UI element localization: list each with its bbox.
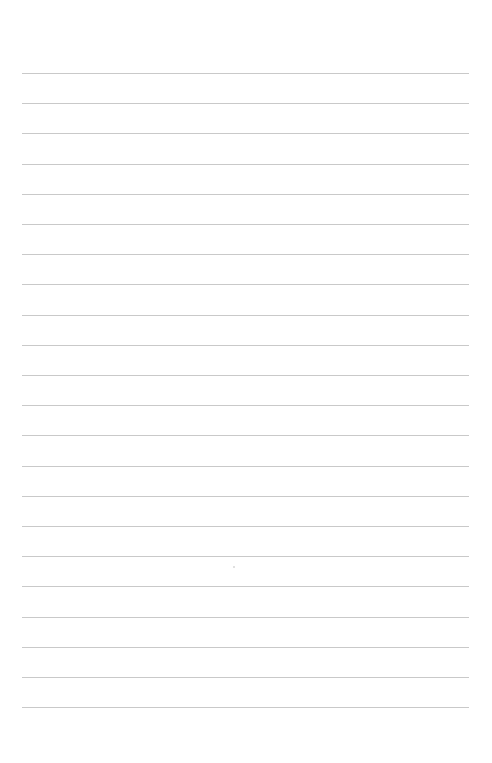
ruled-line: [22, 617, 469, 618]
ruled-line: [22, 466, 469, 467]
ruled-line: [22, 73, 469, 74]
ruled-line: [22, 677, 469, 678]
ruled-line: [22, 224, 469, 225]
lined-paper-page: [0, 0, 492, 763]
ruled-line: [22, 496, 469, 497]
ruled-line: [22, 284, 469, 285]
ruled-line: [22, 315, 469, 316]
ruled-line: [22, 375, 469, 376]
ruled-line: [22, 133, 469, 134]
ruled-line: [22, 435, 469, 436]
ruled-line: [22, 526, 469, 527]
ruled-line: [22, 707, 469, 708]
ruled-line: [22, 647, 469, 648]
ruled-line: [22, 586, 469, 587]
ruled-line: [22, 345, 469, 346]
ruled-line: [22, 405, 469, 406]
ruled-line: [22, 556, 469, 557]
ruled-line: [22, 254, 469, 255]
ruled-line: [22, 164, 469, 165]
ruled-line: [22, 103, 469, 104]
paper-speck: [233, 566, 235, 568]
ruled-line: [22, 194, 469, 195]
